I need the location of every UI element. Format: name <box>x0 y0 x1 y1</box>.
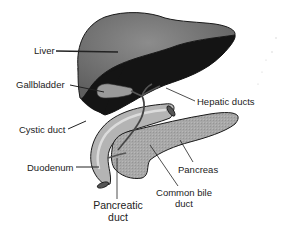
leader-cystic-duct <box>68 121 86 129</box>
label-liver: Liver <box>34 45 55 56</box>
label-pancreas: Pancreas <box>178 164 218 175</box>
anatomy-diagram <box>0 0 291 230</box>
label-gallbladder: Gallbladder <box>16 79 65 90</box>
label-common-bile-duct: Common bile duct <box>154 187 214 209</box>
label-pancreatic-duct-line2: duct <box>88 211 148 223</box>
stray-marks <box>257 37 276 84</box>
label-common-bile-duct-line1: Common bile <box>154 187 214 198</box>
label-pancreatic-duct-line1: Pancreatic <box>88 199 148 211</box>
label-pancreatic-duct: Pancreatic duct <box>88 199 148 223</box>
label-duodenum: Duodenum <box>27 162 73 173</box>
label-common-bile-duct-line2: duct <box>154 198 214 209</box>
label-cystic-duct: Cystic duct <box>19 124 65 135</box>
leader-hepatic-ducts <box>166 88 195 101</box>
label-hepatic-ducts: Hepatic ducts <box>197 96 255 107</box>
